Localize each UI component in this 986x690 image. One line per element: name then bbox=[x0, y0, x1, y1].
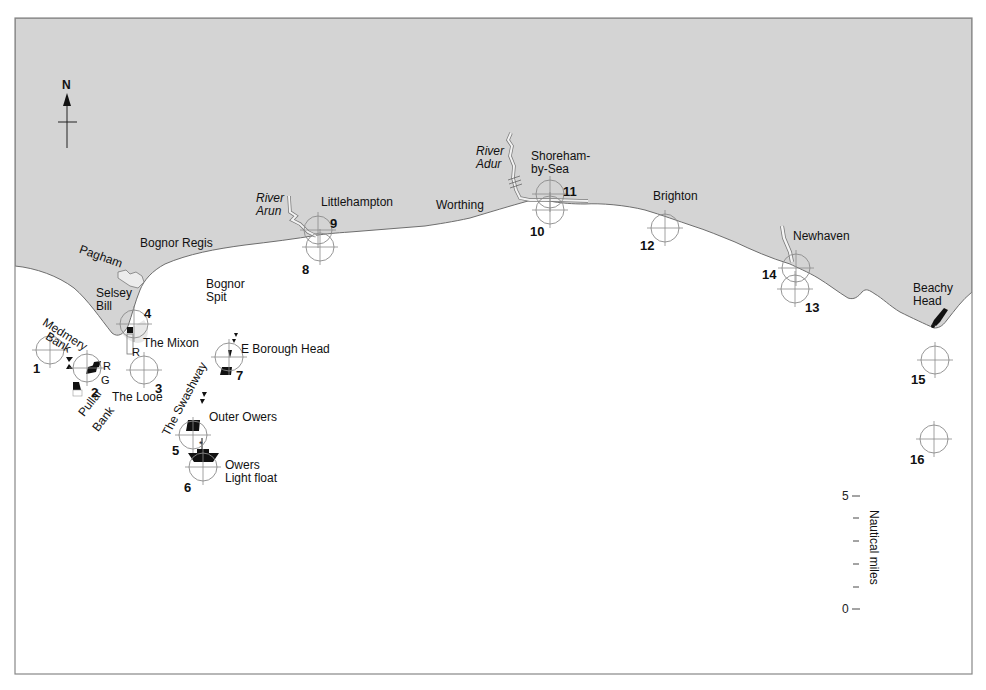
compass-label: N bbox=[62, 79, 71, 92]
waypoint-number: 4 bbox=[144, 307, 151, 320]
waypoint-number: 2 bbox=[91, 386, 98, 399]
place-label: by-Sea bbox=[531, 163, 569, 176]
scale-title: Nautical miles bbox=[867, 510, 880, 585]
feature-label: R bbox=[132, 346, 140, 359]
feature-label: Outer Owers bbox=[209, 411, 277, 424]
river-label: Adur bbox=[476, 158, 501, 171]
waypoint-number: 11 bbox=[563, 185, 577, 198]
river-label: Arun bbox=[256, 205, 281, 218]
feature-label: E Borough Head bbox=[241, 343, 330, 356]
place-label: Worthing bbox=[436, 199, 484, 212]
feature-label: R bbox=[103, 360, 111, 373]
place-label: Bill bbox=[96, 300, 112, 313]
waypoint-number: 15 bbox=[911, 373, 925, 386]
feature-label: Light float bbox=[225, 472, 277, 485]
place-label: Littlehampton bbox=[321, 196, 393, 209]
chart-map: * N Bognor RegisPaghamSelseyBillLittleha… bbox=[0, 0, 986, 690]
place-label: Newhaven bbox=[793, 230, 850, 243]
waypoint-number: 14 bbox=[762, 268, 776, 281]
waypoint-number: 7 bbox=[236, 369, 243, 382]
feature-label: Spit bbox=[206, 291, 227, 304]
waypoint-number: 8 bbox=[302, 263, 309, 276]
feature-label: The Mixon bbox=[143, 337, 199, 350]
waypoint-number: 9 bbox=[330, 217, 337, 230]
waypoint-number: 5 bbox=[172, 444, 179, 457]
place-label: Bognor Regis bbox=[140, 237, 213, 250]
scale-min-label: 0 bbox=[842, 603, 849, 615]
place-label: Head bbox=[913, 295, 942, 308]
waypoint-number: 10 bbox=[530, 225, 544, 238]
waypoint-number: 16 bbox=[910, 453, 924, 466]
feature-label: G bbox=[101, 374, 110, 387]
waypoint-number: 12 bbox=[640, 239, 654, 252]
waypoint-number: 1 bbox=[33, 362, 40, 375]
place-label: Brighton bbox=[653, 190, 698, 203]
waypoint-number: 3 bbox=[155, 382, 162, 395]
scale-max-label: 5 bbox=[842, 490, 849, 502]
mixon-beacon bbox=[127, 327, 133, 333]
waypoint-number: 6 bbox=[184, 481, 191, 494]
waypoint-number: 13 bbox=[805, 301, 819, 314]
